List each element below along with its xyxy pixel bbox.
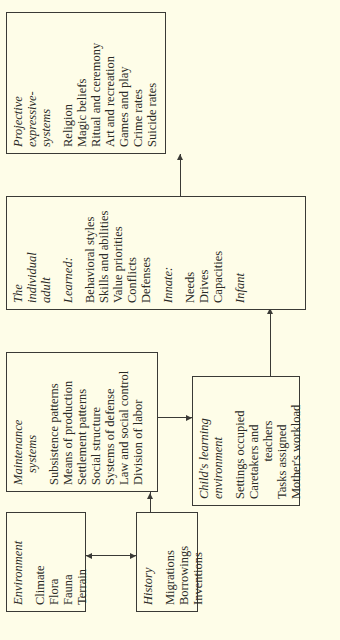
projective-item: Ritual and ceremony [89,19,103,147]
maintenance-title: systems [25,359,39,485]
projective-item: Religion [61,19,75,147]
environment-box: Environment Climate Flora Fauna Terrain [6,512,86,612]
innate-label: Innate: [161,203,175,303]
environment-title: Environment [11,519,25,605]
projective-title: expressive- [25,19,39,147]
projective-title: systems [39,19,53,147]
learned-item: Conflicts [125,203,139,303]
maintenance-item: Subsistence patterns [47,359,61,485]
adult-projective-connector [180,154,181,196]
individual-adult-box: The individual adult Learned: Behavioral… [6,196,306,310]
environment-item: Flora [47,519,61,605]
history-item: Migrations [163,519,177,605]
adult-title: adult [39,203,53,303]
learned-label: Learned: [61,203,75,303]
maintenance-item: Settlement patterns [75,359,89,485]
projective-item: Suicide rates [145,19,159,147]
history-title: History [141,519,155,605]
maintenance-title: Maintenance [11,359,25,485]
environment-item: Fauna [61,519,75,605]
infant-label: Infant [233,203,247,303]
arrow-head-icon [177,154,183,160]
maintenance-item: Law and social control [117,359,131,485]
arrow-head-icon [86,553,92,559]
learned-item: Defenses [139,203,153,303]
child-item: Mother's workload [289,383,303,499]
child-item: Settings occupied [233,383,247,499]
child-adult-connector [270,306,271,376]
innate-item: Needs [183,203,197,303]
maintenance-item: Social structure [89,359,103,485]
environment-item: Climate [33,519,47,605]
projective-item: Magic beliefs [75,19,89,147]
child-item: Caretakers and [247,383,261,499]
projective-item: Games and play [117,19,131,147]
maintenance-item: Means of production [61,359,75,485]
learned-item: Value priorities [111,203,125,303]
history-item: Inventions [191,519,205,605]
child-title: environment [211,383,225,499]
history-box: History Migrations Borrowings Inventions [136,512,198,612]
child-learning-box: Child's learning environment Settings oc… [192,376,300,506]
adult-title: individual [25,203,39,303]
projective-title: Projective [11,19,25,147]
maintenance-box: Maintenance systems Subsistence patterns… [6,352,158,492]
history-item: Borrowings [177,519,191,605]
projective-item: Art and recreation [103,19,117,147]
child-item: Tasks assigned [275,383,289,499]
maintenance-item: Systems of defense [103,359,117,485]
diagram-canvas: Environment Climate Flora Fauna Terrain … [0,0,340,640]
child-item: teachers [261,383,275,499]
arrow-head-icon [147,493,153,499]
innate-item: Capacities [211,203,225,303]
projective-box: Projective expressive- systems Religion … [6,12,166,154]
projective-item: Crime rates [131,19,145,147]
environment-item: Terrain [75,519,89,605]
learned-item: Skills and abilities [97,203,111,303]
child-title: Child's learning [197,383,211,499]
maintenance-item: Division of labor [131,359,145,485]
env-history-connector [86,555,136,556]
learned-item: Behavioral styles [83,203,97,303]
adult-title: The [11,203,25,303]
innate-item: Drives [197,203,211,303]
